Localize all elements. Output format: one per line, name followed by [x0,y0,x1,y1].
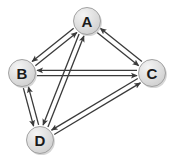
arrow-a-to-b [32,28,74,61]
node-label: C [147,65,158,82]
edge-layer [23,28,142,134]
node-label: D [35,132,46,149]
node-label: B [17,65,28,82]
graph-edge-b-d[interactable] [23,87,38,126]
arrow-a-to-c [100,28,142,61]
arrow-c-to-d [54,83,140,135]
graph-edge-a-c[interactable] [97,28,142,65]
graph-edge-c-d[interactable] [52,78,141,134]
arrow-b-to-d [28,87,38,125]
arrow-a-to-b [35,32,77,65]
arrow-a-to-c [97,32,139,65]
graph-node-b[interactable]: B [9,60,37,89]
graph-edge-b-c[interactable] [37,70,137,75]
graph-node-a[interactable]: A [74,8,102,37]
graph-edge-a-b[interactable] [32,28,77,65]
directed-graph-figure: ABCD [0,0,174,162]
graph-node-c[interactable]: C [139,60,167,89]
node-label: A [82,13,93,30]
node-layer: ABCD [9,8,167,156]
graph-node-d[interactable]: D [27,127,55,156]
graph-canvas: ABCD [0,0,174,162]
arrow-b-to-d [23,88,33,126]
